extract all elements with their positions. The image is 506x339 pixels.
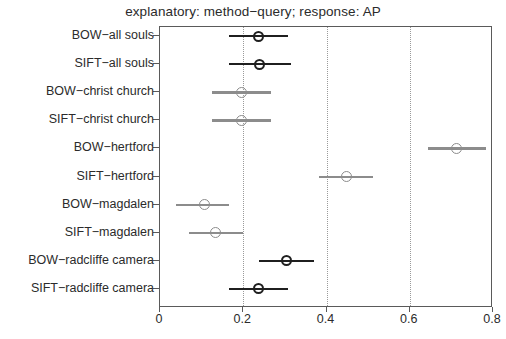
data-point-marker	[199, 199, 210, 210]
data-point-marker	[236, 87, 247, 98]
x-axis-tick-label: 0.4	[317, 312, 334, 326]
data-point-marker	[253, 283, 264, 294]
data-point-marker	[210, 227, 221, 238]
y-axis-tick-label: BOW−magdalen	[62, 197, 154, 211]
chart-figure: explanatory: method−query; response: AP …	[0, 0, 506, 339]
x-axis-tick-label: 0.2	[234, 312, 251, 326]
page-title: explanatory: method−query; response: AP	[0, 4, 506, 19]
x-axis-tick-label: 0.8	[483, 312, 500, 326]
y-axis-tick-label: BOW−radcliffe camera	[28, 253, 154, 267]
y-axis-tick-label: BOW−christ church	[46, 84, 154, 98]
plot-area	[159, 26, 492, 307]
data-point-marker	[254, 59, 265, 70]
y-axis-tick-label: BOW−all souls	[72, 28, 154, 42]
data-point-marker	[236, 115, 247, 126]
x-axis-tick-label: 0.6	[400, 312, 417, 326]
data-point-marker	[281, 255, 292, 266]
y-axis-tick-label: SIFT−hertford	[77, 169, 154, 183]
x-axis-tick-label: 0	[156, 312, 163, 326]
y-axis-tick-label: BOW−hertford	[74, 140, 154, 154]
data-series-layer	[160, 27, 491, 306]
y-axis-tick-label: SIFT−christ church	[49, 112, 154, 126]
y-axis-tick-label: SIFT−magdalen	[65, 225, 154, 239]
data-point-marker	[341, 171, 352, 182]
y-axis-tick-label: SIFT−radcliffe camera	[31, 281, 154, 295]
data-point-marker	[253, 31, 264, 42]
y-axis-tick-label: SIFT−all souls	[74, 56, 154, 70]
data-point-marker	[451, 143, 462, 154]
